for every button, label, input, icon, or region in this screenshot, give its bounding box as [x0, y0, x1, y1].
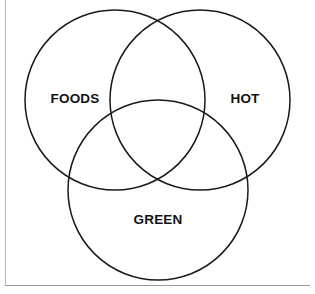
- venn-circle-green: [68, 100, 248, 280]
- venn-diagram-page: FOODS HOT GREEN: [0, 0, 315, 294]
- venn-label-foods: FOODS: [50, 91, 99, 106]
- venn-canvas: FOODS HOT GREEN: [0, 0, 315, 294]
- venn-label-green: GREEN: [133, 212, 182, 227]
- venn-circle-hot: [110, 10, 290, 190]
- venn-label-hot: HOT: [230, 91, 259, 106]
- venn-circles-svg: [0, 0, 315, 294]
